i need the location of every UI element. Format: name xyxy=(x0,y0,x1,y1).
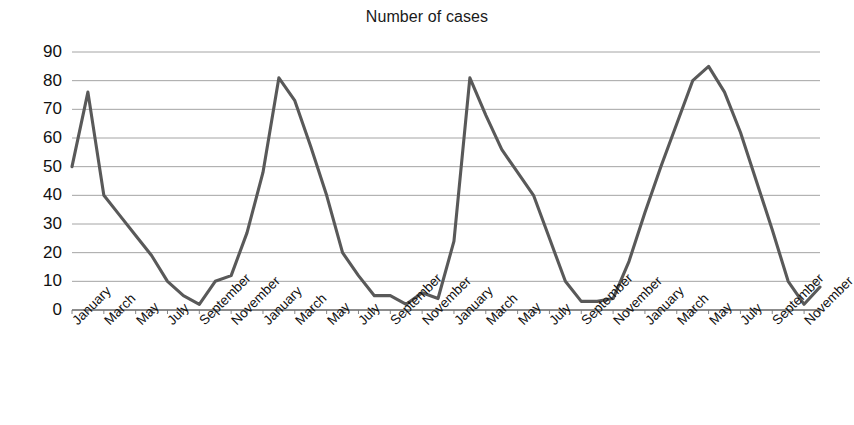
y-axis-tick-label: 30 xyxy=(16,215,62,232)
y-axis-tick-label: 70 xyxy=(16,100,62,117)
y-axis-tick-label: 50 xyxy=(16,158,62,175)
y-axis-tick-label: 40 xyxy=(16,186,62,203)
y-axis-tick-label: 0 xyxy=(16,301,62,318)
plot-area xyxy=(0,0,854,425)
line-chart: Number of cases 0102030405060708090 Janu… xyxy=(0,0,854,425)
y-axis-tick-label: 90 xyxy=(16,43,62,60)
data-series-line xyxy=(72,66,820,304)
y-axis-tick-label: 80 xyxy=(16,72,62,89)
y-axis-tick-label: 10 xyxy=(16,272,62,289)
y-axis-tick-label: 60 xyxy=(16,129,62,146)
y-axis-tick-label: 20 xyxy=(16,244,62,261)
